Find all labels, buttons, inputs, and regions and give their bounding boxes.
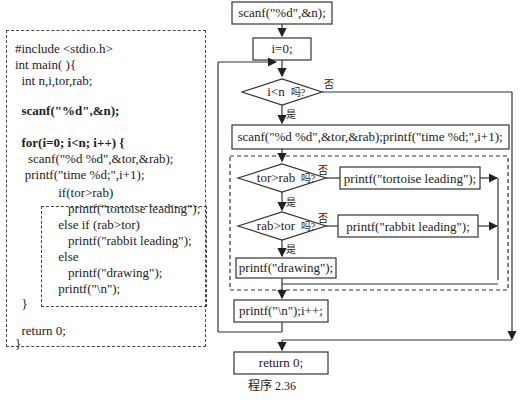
label-no: 否: [318, 165, 328, 176]
node-cond-loop-q: 吗?: [291, 87, 306, 98]
figure-caption: 程序 2.36: [248, 376, 296, 394]
label-yes: 是: [286, 197, 296, 208]
node-read-pair: scanf("%d %d",&tor,&rab);printf("time %d…: [237, 129, 502, 144]
flowchart: scanf("%d",&n); i=0; i<n 吗? 否 是 scanf("%…: [0, 0, 521, 400]
node-print-rabbit: printf("rabbit leading");: [346, 219, 470, 234]
node-return: return 0;: [259, 355, 303, 370]
node-cond-rab-q: 吗?: [301, 221, 316, 232]
node-init-i: i=0;: [271, 41, 292, 56]
node-cond-tor: tor>rab: [257, 170, 295, 185]
label-yes: 是: [286, 244, 296, 255]
label-no: 否: [324, 79, 334, 90]
node-scanf-n: scanf("%d",&n);: [238, 5, 326, 20]
node-cond-rab: rab>tor: [257, 218, 296, 233]
label-yes: 是: [286, 109, 296, 120]
node-cond-loop: i<n: [267, 84, 285, 99]
node-print-newline: printf("\n");i++;: [239, 303, 323, 318]
node-cond-tor-q: 吗?: [301, 173, 316, 184]
node-print-drawing: printf("drawing");: [239, 260, 333, 275]
node-print-tortoise: printf("tortoise leading");: [344, 171, 476, 186]
label-no: 否: [318, 213, 328, 224]
